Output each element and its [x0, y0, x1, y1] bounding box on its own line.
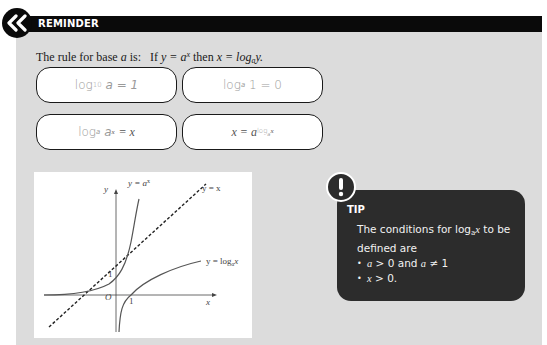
tip-title: TIP	[347, 204, 365, 215]
formula-log10-a: log10 a = 1	[36, 67, 177, 103]
x-axis-label: x	[206, 297, 210, 307]
tip-body: The conditions for logax to be defined a…	[357, 222, 522, 286]
formula-loga-ax: loga ax = x	[36, 114, 177, 150]
base-rule-text: The rule for base a is: If y = ax then x…	[36, 50, 263, 65]
formula-loga-1: loga 1 = 0	[182, 67, 323, 103]
tip-conditions-list: a > 0 and a ≠ 1 x > 0.	[357, 256, 522, 286]
y-axis-label: y	[104, 184, 108, 194]
exp-curve-label: y = ax	[128, 178, 150, 188]
graph-svg	[34, 172, 252, 338]
tip-condition-a: a > 0 and a ≠ 1	[357, 256, 522, 271]
x-intercept-label: 1	[129, 296, 134, 306]
identity-line-label: y = x	[202, 183, 221, 193]
y-intercept-label: 1	[108, 269, 113, 279]
origin-label: O	[105, 292, 112, 302]
formula-x-equals: x = alogax	[182, 114, 323, 150]
exclamation-icon	[326, 172, 356, 202]
log-curve-label: y = logax	[206, 256, 238, 267]
tip-condition-x: x > 0.	[357, 271, 522, 286]
tip-intro: The conditions for logax to be defined a…	[357, 222, 522, 256]
exp-log-graph: y x O 1 1 y = ax y = x y = logax	[34, 172, 252, 338]
reminder-title: REMINDER	[38, 17, 99, 31]
double-chevron-left-icon	[2, 8, 32, 38]
